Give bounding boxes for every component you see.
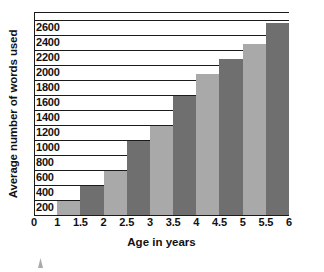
bar-4-5 bbox=[196, 74, 219, 215]
x-axis-tick-labels: 011.522.533.544.555.56 bbox=[34, 216, 289, 232]
x-axis-tick-label: 1 bbox=[54, 216, 60, 228]
x-axis-tick-label: 3 bbox=[147, 216, 153, 228]
x-axis-tick-label: 5 bbox=[240, 216, 246, 228]
x-axis-tick-label: 4 bbox=[193, 216, 199, 228]
bars-layer bbox=[34, 12, 289, 215]
bar-5-5 bbox=[243, 44, 266, 215]
y-axis-line bbox=[34, 12, 35, 216]
bar-2-5 bbox=[104, 171, 127, 215]
bar-2 bbox=[80, 186, 103, 215]
y-axis-title-container: Average number of words used bbox=[0, 14, 26, 214]
x-axis-tick-label: 0 bbox=[31, 216, 37, 228]
x-axis-tick-label: 2 bbox=[101, 216, 107, 228]
x-axis-tick-label: 2.5 bbox=[119, 216, 134, 228]
x-axis-title: Age in years bbox=[34, 236, 289, 248]
x-axis-tick-label: 5.5 bbox=[258, 216, 273, 228]
y-axis-title: Average number of words used bbox=[7, 30, 19, 199]
bar-4 bbox=[173, 96, 196, 215]
plot-area: 2600240022002000180016001400120010008006… bbox=[34, 12, 289, 215]
scan-artifact-mark bbox=[38, 258, 43, 268]
x-axis-tick-label: 6 bbox=[286, 216, 292, 228]
bar-chart: Average number of words used 26002400220… bbox=[0, 0, 324, 272]
bar-3-5 bbox=[150, 126, 173, 215]
bar-6 bbox=[266, 23, 289, 215]
bar-5 bbox=[219, 59, 242, 215]
x-axis-tick-label: 3.5 bbox=[166, 216, 181, 228]
bar-1-5 bbox=[57, 201, 80, 215]
x-axis-tick-label: 1.5 bbox=[73, 216, 88, 228]
bar-3 bbox=[127, 141, 150, 215]
x-axis-tick-label: 4.5 bbox=[212, 216, 227, 228]
